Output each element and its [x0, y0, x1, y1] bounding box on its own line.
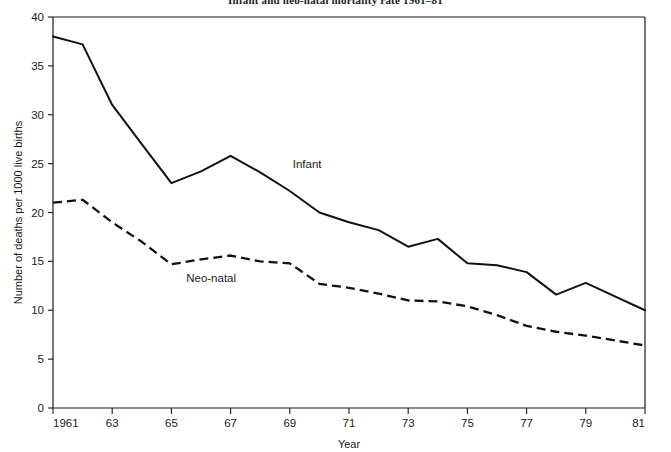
- y-axis-title: Number of deaths per 1000 live births: [12, 120, 24, 304]
- x-tick-label: 65: [165, 417, 178, 429]
- x-tick-label: 71: [343, 417, 356, 429]
- y-tick-label: 5: [38, 353, 44, 365]
- axis-titles: Number of deaths per 1000 live birthsYea…: [12, 120, 360, 450]
- series-annotations: InfantNeo-natal: [186, 158, 322, 284]
- chart-page: Infant and neo-natal mortality rate 1961…: [0, 0, 671, 452]
- series-line-infant: [53, 37, 645, 311]
- x-tick-label: 1961: [53, 417, 79, 429]
- line-chart: 0510152025303540196163656769717375777981…: [0, 0, 671, 452]
- axes-group: 0510152025303540196163656769717375777981: [31, 11, 645, 429]
- x-axis-title: Year: [338, 438, 361, 450]
- x-tick-label: 75: [461, 417, 474, 429]
- y-tick-label: 15: [31, 255, 44, 267]
- y-tick-label: 0: [38, 402, 44, 414]
- x-tick-label: 79: [579, 417, 592, 429]
- series-label-neo-natal: Neo-natal: [186, 272, 236, 284]
- y-tick-label: 25: [31, 158, 44, 170]
- x-tick-label: 63: [106, 417, 119, 429]
- x-tick-label: 73: [402, 417, 415, 429]
- x-tick-label: 69: [283, 417, 296, 429]
- x-tick-label: 67: [224, 417, 237, 429]
- y-tick-label: 40: [31, 11, 44, 23]
- y-tick-label: 10: [31, 304, 44, 316]
- y-tick-label: 20: [31, 207, 44, 219]
- series-group: [53, 37, 645, 346]
- x-tick-label: 77: [520, 417, 533, 429]
- x-tick-label: 81: [632, 417, 645, 429]
- y-tick-label: 30: [31, 109, 44, 121]
- y-tick-label: 35: [31, 60, 44, 72]
- series-label-infant: Infant: [293, 158, 323, 170]
